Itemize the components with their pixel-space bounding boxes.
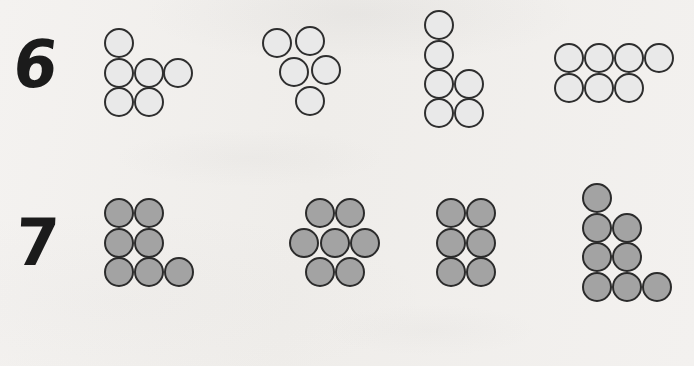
dot[interactable] (311, 55, 341, 85)
dot[interactable] (335, 257, 365, 287)
dot[interactable] (424, 98, 454, 128)
dot[interactable] (454, 69, 484, 99)
dot[interactable] (295, 86, 325, 116)
dot[interactable] (320, 228, 350, 258)
dot[interactable] (104, 257, 134, 287)
dot[interactable] (262, 28, 292, 58)
dot[interactable] (134, 257, 164, 287)
dot[interactable] (436, 228, 466, 258)
row-number-label: 7 (14, 210, 60, 275)
dot[interactable] (582, 242, 612, 272)
dot[interactable] (554, 73, 584, 103)
dot[interactable] (279, 57, 309, 87)
dot[interactable] (436, 198, 466, 228)
dot[interactable] (584, 43, 614, 73)
dot[interactable] (104, 87, 134, 117)
dot[interactable] (134, 198, 164, 228)
dot[interactable] (582, 183, 612, 213)
dot[interactable] (584, 73, 614, 103)
dot[interactable] (554, 43, 584, 73)
dot[interactable] (454, 98, 484, 128)
dot[interactable] (335, 198, 365, 228)
dot[interactable] (424, 69, 454, 99)
dot[interactable] (582, 272, 612, 302)
dot[interactable] (104, 228, 134, 258)
dot[interactable] (163, 58, 193, 88)
dot[interactable] (134, 228, 164, 258)
dot[interactable] (614, 43, 644, 73)
dot[interactable] (466, 257, 496, 287)
dot[interactable] (582, 213, 612, 243)
dot[interactable] (305, 198, 335, 228)
dot[interactable] (642, 272, 672, 302)
dot[interactable] (614, 73, 644, 103)
dot[interactable] (104, 58, 134, 88)
dot[interactable] (466, 228, 496, 258)
dot[interactable] (295, 26, 325, 56)
worksheet-sheet: 67 (0, 0, 694, 366)
dot[interactable] (424, 40, 454, 70)
dot[interactable] (350, 228, 380, 258)
dot[interactable] (466, 198, 496, 228)
dot[interactable] (134, 58, 164, 88)
dot[interactable] (436, 257, 466, 287)
row-number-label: 6 (10, 32, 61, 98)
dot[interactable] (612, 242, 642, 272)
dot[interactable] (104, 198, 134, 228)
dot[interactable] (424, 10, 454, 40)
dot[interactable] (305, 257, 335, 287)
dot[interactable] (289, 228, 319, 258)
dot[interactable] (134, 87, 164, 117)
dot[interactable] (612, 213, 642, 243)
dot[interactable] (644, 43, 674, 73)
dot[interactable] (104, 28, 134, 58)
dot[interactable] (164, 257, 194, 287)
dot[interactable] (612, 272, 642, 302)
